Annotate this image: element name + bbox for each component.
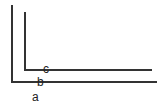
inner-vertical-line xyxy=(24,12,26,70)
label-b: b xyxy=(37,76,44,88)
label-c: c xyxy=(43,63,49,75)
outer-vertical-line xyxy=(11,5,13,82)
outer-horizontal-line xyxy=(11,81,157,83)
label-a: a xyxy=(32,91,39,103)
